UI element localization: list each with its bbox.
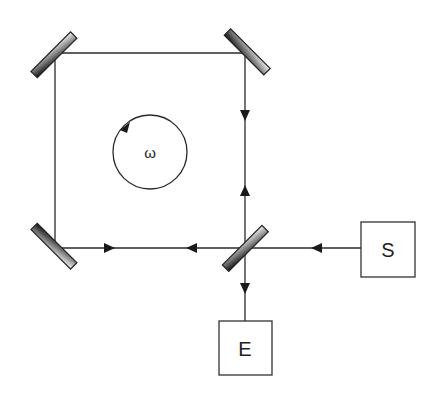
- arrow-left-icon: [311, 243, 322, 253]
- arrow-right-icon: [104, 243, 115, 253]
- mirror-top-right: [224, 29, 270, 75]
- rotation-indicator: ω: [113, 115, 187, 189]
- mirror-bottom-left: [31, 223, 77, 269]
- arrowheads: [104, 110, 322, 294]
- arrow-down-icon: [240, 283, 250, 294]
- mirror-top-left: [31, 32, 77, 78]
- detector-box: E: [219, 321, 272, 375]
- rotation-label: ω: [144, 144, 156, 161]
- detector-label: E: [238, 338, 251, 360]
- beam-paths: [55, 53, 361, 321]
- source-box: S: [361, 222, 415, 277]
- arrow-up-icon: [240, 185, 250, 196]
- arrow-down-icon: [240, 110, 250, 121]
- arrow-left-icon: [186, 243, 197, 253]
- sagnac-diagram: ω S E: [0, 0, 439, 398]
- source-label: S: [381, 239, 394, 261]
